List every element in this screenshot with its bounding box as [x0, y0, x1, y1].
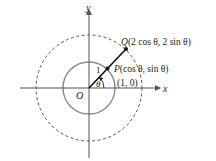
point-q [124, 47, 128, 51]
point-q-label: Q(2 cos θ, 2 sin θ) [121, 37, 191, 48]
y-axis-label: y [85, 2, 91, 13]
segment-length-label: 1 [96, 65, 101, 75]
point-p-label: P(cos θ, sin θ) [113, 64, 169, 75]
origin-label: O [76, 90, 83, 101]
polar-coordinates-diagram: y x O 1 θ P(cos θ, sin θ) Q(2 cos θ, 2 s… [0, 0, 216, 161]
point-p [106, 67, 110, 71]
unit-point-label: (1, 0) [117, 78, 138, 89]
angle-label: θ [96, 79, 101, 89]
x-axis-label: x [162, 83, 168, 94]
